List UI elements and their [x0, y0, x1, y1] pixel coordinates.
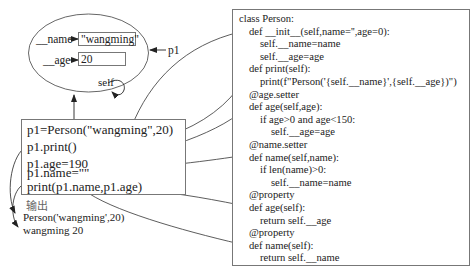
class-code-line: def name(self): [249, 240, 313, 252]
output-line: Person('wangming',20) [23, 211, 124, 223]
class-code-line: @age.setter [249, 89, 299, 101]
class-code-line: @property [249, 227, 295, 239]
client-code-line: p1=Person("wangming",20) [27, 122, 173, 137]
self-label: self [98, 76, 114, 89]
class-code-line: if age>0 and age<150: [260, 114, 355, 126]
client-code-line: p1.print() [27, 139, 76, 154]
client-code-box: p1=Person("wangming",20) p1.print() p1.a… [21, 119, 186, 195]
class-code-line: self.__name=name [260, 38, 340, 50]
class-code-line: def age(self): [249, 202, 305, 214]
age-value: 20 [81, 53, 93, 65]
class-code-line: self.__name=name [271, 177, 351, 189]
output-line: wangming 20 [23, 224, 83, 236]
class-code-line: self.__age=age [260, 51, 324, 63]
class-code-line: if len(name)>0: [260, 164, 326, 176]
class-code-line: print(f"Person('{self.__name}',{self.__a… [260, 76, 457, 88]
class-code-line: class Person: [239, 13, 294, 25]
class-code-line: @property [249, 189, 295, 201]
class-code-line: return self.__age [260, 215, 331, 227]
class-code-line: def name(self,name): [249, 152, 339, 164]
client-code-line: p1.name="" [27, 165, 89, 180]
name-value-box: "wangming" [78, 32, 136, 46]
class-code-line: def age(self,age): [249, 101, 323, 113]
name-field-label: __name [36, 33, 72, 46]
class-code-line: def __init__(self,name='',age=0): [249, 26, 390, 38]
class-code-line: @name.setter [249, 139, 307, 151]
client-code-line: print(p1.name,p1.age) [27, 179, 142, 194]
name-value: "wangming" [81, 33, 139, 45]
age-value-box: 20 [78, 52, 126, 66]
class-code-box: class Person: def __init__(self,name='',… [232, 9, 470, 266]
age-field-label: __age [43, 54, 70, 67]
class-code-line: self.__age=age [271, 126, 335, 138]
class-code-line: def print(self): [249, 63, 310, 75]
p1-reference-label: p1 [168, 44, 180, 57]
class-code-line: return self.__name [260, 252, 339, 264]
